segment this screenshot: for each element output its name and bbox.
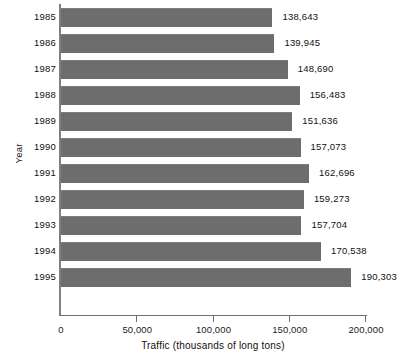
bar-value-label: 159,273: [314, 190, 350, 208]
bar-value-label: 156,483: [310, 86, 346, 104]
bar-chart: 1985138,6431986139,9451987148,6901988156…: [0, 0, 400, 360]
bar-value-label: 190,303: [361, 268, 397, 286]
bar-category-label: 1994: [0, 242, 56, 260]
bar: [61, 8, 272, 27]
plot-area: 1985138,6431986139,9451987148,6901988156…: [0, 0, 400, 360]
bar: [61, 268, 351, 287]
x-axis-tick-label: 100,000: [196, 324, 231, 335]
y-axis-title: Year: [13, 124, 24, 184]
bar-value-label: 162,696: [319, 164, 355, 182]
bar-value-label: 157,073: [311, 138, 347, 156]
bar-category-label: 1989: [0, 112, 56, 130]
x-axis-tick-label: 0: [58, 324, 63, 335]
bar: [61, 60, 288, 79]
bar-category-label: 1991: [0, 164, 56, 182]
x-axis-tick: [289, 316, 290, 322]
x-axis-tick-label: 150,000: [272, 324, 307, 335]
bar-value-label: 148,690: [298, 60, 334, 78]
bar-category-label: 1992: [0, 190, 56, 208]
x-axis-tick: [213, 316, 214, 322]
bar-category-label: 1988: [0, 86, 56, 104]
x-axis-title: Traffic (thousands of long tons): [59, 340, 367, 351]
bar-category-label: 1986: [0, 34, 56, 52]
bar: [61, 190, 304, 209]
bar: [61, 34, 274, 53]
bar-value-label: 138,643: [282, 8, 318, 26]
bar: [61, 138, 301, 157]
x-axis-tick-label: 200,000: [348, 324, 383, 335]
bar-category-label: 1995: [0, 268, 56, 286]
x-axis-tick: [136, 316, 137, 322]
bar: [61, 112, 292, 131]
x-axis-tick: [365, 316, 366, 322]
bar-category-label: 1993: [0, 216, 56, 234]
x-axis-tick-label: 50,000: [122, 324, 152, 335]
bar: [61, 164, 309, 183]
bar-category-label: 1985: [0, 8, 56, 26]
bar-value-label: 157,704: [311, 216, 347, 234]
bar: [61, 242, 321, 261]
bar-value-label: 170,538: [331, 242, 367, 260]
bar-category-label: 1987: [0, 60, 56, 78]
bar-value-label: 139,945: [284, 34, 320, 52]
bar-category-label: 1990: [0, 138, 56, 156]
bar-value-label: 151,636: [302, 112, 338, 130]
bar: [61, 86, 300, 105]
bar: [61, 216, 301, 235]
